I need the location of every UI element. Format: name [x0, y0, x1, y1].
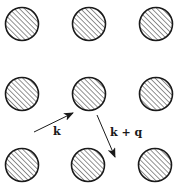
lattice-scattering-diagram: kk + q: [0, 0, 182, 193]
lattice-atom-r0-c1: [73, 8, 106, 41]
lattice-atom-r2-c0: [6, 149, 39, 182]
lattice-atom-r1-c2: [140, 78, 173, 111]
lattice-atom-r0-c0: [6, 8, 39, 41]
lattice-atom-r0-c2: [140, 8, 173, 41]
wave-vector-labels: kk + q: [53, 125, 142, 139]
lattice-atom-r1-c0: [6, 78, 39, 111]
wave-vector-arrows: [34, 113, 115, 157]
lattice-atom-r2-c1: [72, 149, 105, 182]
lattice-atoms: [6, 8, 173, 182]
scattered-wave-vector-label: k + q: [110, 126, 142, 139]
lattice-atom-r2-c2: [139, 149, 172, 182]
lattice-atom-r1-c1: [73, 78, 106, 111]
incident-wave-vector-label: k: [53, 125, 61, 138]
